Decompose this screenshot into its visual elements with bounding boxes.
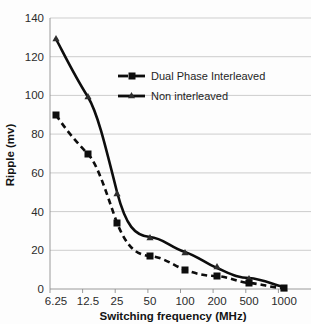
x-tick-label-25: 25 bbox=[111, 295, 124, 307]
y-tick-label-100: 100 bbox=[25, 89, 44, 101]
data-point-marker bbox=[114, 220, 121, 227]
x-tick-label-12-5: 12.5 bbox=[77, 295, 99, 307]
x-tick-label-50: 50 bbox=[144, 295, 157, 307]
x-tick-label-1000: 1000 bbox=[271, 295, 297, 307]
y-tick-label-40: 40 bbox=[31, 206, 44, 218]
x-tick-label-6-25: 6.25 bbox=[45, 295, 67, 307]
x-tick-label-500: 500 bbox=[239, 295, 258, 307]
data-point-marker bbox=[281, 285, 288, 292]
data-point-marker bbox=[53, 112, 60, 119]
x-axis-title: Switching frequency (MHz) bbox=[100, 310, 247, 322]
ripple-vs-frequency-chart: 140 120 100 80 60 40 20 0 6.25 12.5 25 5… bbox=[0, 0, 311, 324]
y-tick-label-120: 120 bbox=[25, 51, 44, 63]
data-point-marker bbox=[214, 273, 221, 280]
data-point-marker bbox=[85, 151, 92, 158]
y-axis-title: Ripple (mv) bbox=[4, 124, 16, 187]
x-tick-label-100: 100 bbox=[175, 295, 194, 307]
chart-figure: 140 120 100 80 60 40 20 0 6.25 12.5 25 5… bbox=[0, 0, 311, 324]
data-point-marker bbox=[246, 280, 253, 287]
y-tick-label-20: 20 bbox=[31, 244, 44, 256]
y-tick-label-60: 60 bbox=[31, 167, 44, 179]
x-tick-label-200: 200 bbox=[207, 295, 226, 307]
y-tick-label-0: 0 bbox=[38, 283, 44, 295]
y-tick-label-140: 140 bbox=[25, 12, 44, 24]
legend-marker-square bbox=[129, 73, 136, 80]
chart-background bbox=[0, 0, 311, 324]
data-point-marker bbox=[182, 267, 189, 274]
y-tick-label-80: 80 bbox=[31, 128, 44, 140]
legend-label-non-interleaved: Non interleaved bbox=[151, 90, 228, 102]
legend-label-dual-phase-interleaved: Dual Phase Interleaved bbox=[151, 70, 265, 82]
data-point-marker bbox=[147, 253, 154, 260]
